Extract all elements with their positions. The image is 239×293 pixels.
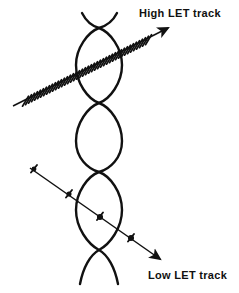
high-let-track bbox=[13, 28, 168, 106]
figure-canvas bbox=[0, 0, 239, 293]
caption-partial bbox=[0, 286, 239, 293]
low-let-track bbox=[30, 165, 160, 259]
low-let-track-line bbox=[30, 168, 160, 259]
high-let-track-label: High LET track bbox=[139, 7, 221, 19]
radiation-track-dna-figure: High LET track Low LET track bbox=[0, 0, 239, 293]
low-let-track-label: Low LET track bbox=[148, 269, 227, 281]
